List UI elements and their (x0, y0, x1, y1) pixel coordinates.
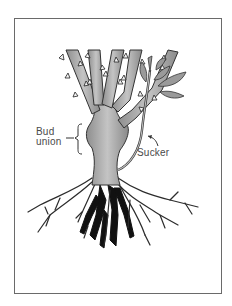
rose-plant-illustration (0, 0, 232, 306)
sucker-label: Sucker (137, 148, 169, 158)
bud-union-label-line2: union (36, 137, 66, 147)
bud-union-label: Bud union (36, 127, 66, 147)
dark-roots (80, 185, 134, 248)
bud-union-bracket (75, 124, 82, 154)
